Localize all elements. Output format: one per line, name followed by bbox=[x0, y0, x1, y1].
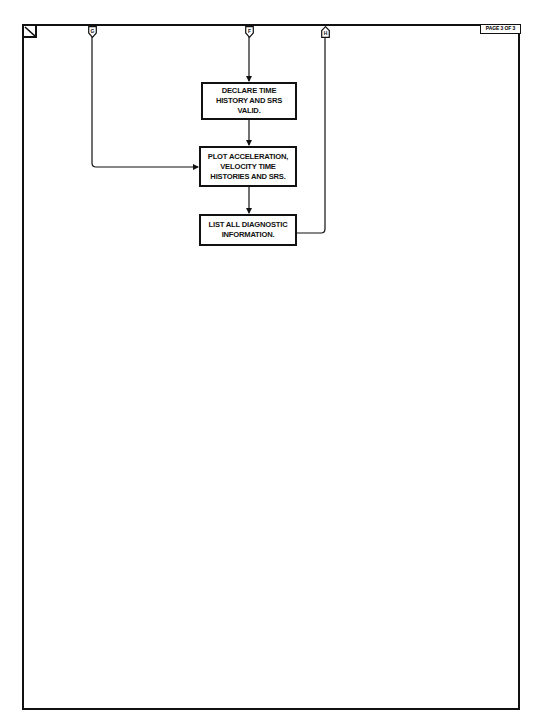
connector-g[interactable]: G bbox=[88, 26, 97, 38]
step-list-diagnostics-text: LIST ALL DIAGNOSTIC INFORMATION. bbox=[204, 220, 292, 240]
connector-h[interactable]: H bbox=[321, 26, 330, 38]
connector-h-label: H bbox=[322, 30, 330, 36]
step-list-diagnostics[interactable]: LIST ALL DIAGNOSTIC INFORMATION. bbox=[199, 214, 297, 246]
step-plot-histories[interactable]: PLOT ACCELERATION, VELOCITY TIME HISTORI… bbox=[199, 146, 297, 187]
connector-f[interactable]: F bbox=[245, 26, 254, 38]
connector-f-label: F bbox=[246, 28, 254, 34]
step-declare-valid-text: DECLARE TIME HISTORY AND SRS VALID. bbox=[206, 86, 292, 116]
step-declare-valid[interactable]: DECLARE TIME HISTORY AND SRS VALID. bbox=[201, 82, 297, 120]
step-plot-histories-text: PLOT ACCELERATION, VELOCITY TIME HISTORI… bbox=[204, 152, 292, 182]
connector-g-label: G bbox=[89, 28, 97, 34]
flowchart-page: PAGE 3 OF 3 G F H bbox=[0, 0, 533, 725]
